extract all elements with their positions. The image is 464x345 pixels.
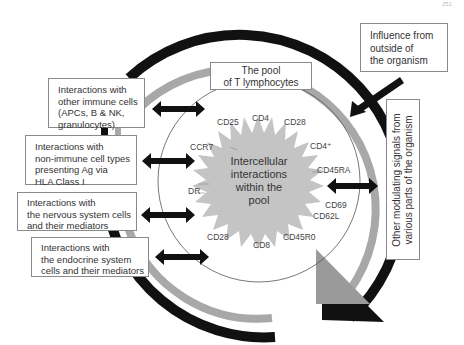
marker-cd25: CD25 [217, 117, 239, 127]
box-line: the nervous system cells [27, 209, 136, 221]
center-line: within the [214, 181, 304, 194]
marker-cd4-plus: CD4⁺ [310, 141, 332, 151]
box-line: and their mediators [27, 220, 136, 232]
box-line: (APCs, B & NK, [58, 107, 144, 119]
double-arrow-modulating [327, 178, 378, 194]
center-label: Intercellular interactions within the po… [214, 155, 304, 207]
box-nervous-system: Interactions with the nervous system cel… [17, 192, 137, 231]
box-line: non-immune cell types [35, 153, 136, 165]
marker-cd4-top: CD4 [252, 113, 269, 123]
box-immune-cells: Interactions with other immune cells (AP… [48, 78, 145, 128]
box-line: presenting Ag via [35, 164, 136, 176]
marker-ccr7: CCR7 [190, 142, 213, 152]
box-line: cells and their mediators [41, 265, 148, 277]
marker-cd45ra: CD45RA [317, 165, 351, 175]
double-arrow-endocrine [155, 249, 209, 265]
center-line: interactions [214, 168, 304, 181]
box-line: various parts of the organism [403, 113, 415, 246]
box-line: Interactions with [27, 197, 136, 209]
marker-cd69: CD69 [325, 200, 347, 210]
box-line: Interactions with [58, 84, 144, 96]
double-arrow-nervous [141, 207, 195, 223]
marker-dr: DR [188, 186, 200, 196]
pool-title-line: The pool [211, 65, 311, 77]
box-line: Interactions with [35, 141, 136, 153]
inner-gray-arc-lower [128, 228, 272, 319]
marker-cd8: CD8 [253, 240, 270, 250]
box-outside-influence: Influence from outside of the organism [360, 23, 448, 72]
box-line: Influence from [370, 30, 447, 43]
box-modulating-signals: Other modulating signals from various pa… [386, 99, 420, 260]
pool-title-line: of T lymphocytes [211, 77, 311, 89]
box-line: Interactions with [41, 242, 148, 254]
pool-title-box: The pool of T lymphocytes [210, 62, 312, 90]
box-line: granulocytes) [58, 119, 144, 131]
page-number: 251 [442, 1, 452, 7]
box-line: other immune cells [58, 96, 144, 108]
double-arrow-immune [152, 101, 205, 117]
box-line: the endocrine system [41, 254, 148, 266]
black-arrowhead [322, 304, 384, 322]
double-arrow-non-immune [142, 153, 195, 169]
marker-cd45r0: CD45R0 [283, 232, 316, 242]
marker-cd28-top: CD28 [284, 117, 306, 127]
center-line: Intercellular [214, 155, 304, 168]
box-line: the organism [370, 55, 447, 68]
center-line: pool [214, 194, 304, 207]
box-endocrine-system: Interactions with the endocrine system c… [31, 237, 149, 277]
box-line: outside of [370, 43, 447, 56]
box-non-immune-cells: Interactions with non-immune cell types … [25, 135, 137, 185]
modulating-text: Other modulating signals from various pa… [391, 113, 415, 246]
marker-cd62l: CD62L [313, 211, 339, 221]
box-line: Other modulating signals from [391, 113, 403, 246]
marker-cd28-bottom: CD28 [207, 232, 229, 242]
box-line: HLA Class I [35, 176, 136, 188]
